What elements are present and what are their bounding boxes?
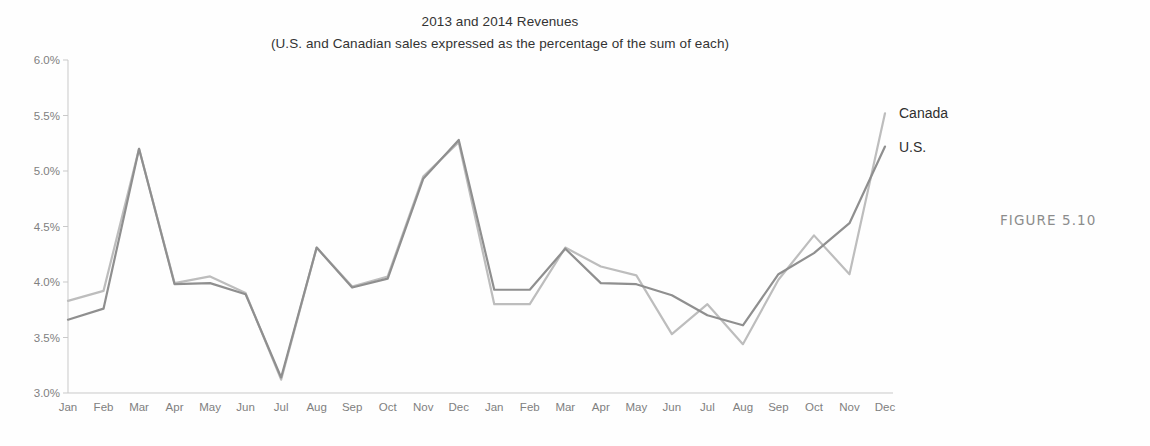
x-tick-label: Jun [236,401,255,413]
x-tick-label: Jul [700,401,715,413]
x-axis-labels: JanFebMarAprMayJunJulAugSepOctNovDecJanF… [0,0,960,430]
x-tick-label: Jan [59,401,78,413]
x-tick-label: Nov [413,401,433,413]
x-tick-label: Sep [768,401,788,413]
x-tick-label: Aug [306,401,326,413]
x-tick-label: Jun [663,401,682,413]
figure-caption: FIGURE 5.10 [1000,212,1096,228]
x-tick-label: Jul [274,401,289,413]
x-tick-label: May [625,401,647,413]
x-tick-label: Mar [129,401,149,413]
x-tick-label: Dec [875,401,895,413]
x-tick-label: Dec [449,401,469,413]
x-tick-label: Apr [166,401,184,413]
series-label-u-s: U.S. [899,139,926,155]
x-tick-label: May [199,401,221,413]
x-tick-label: Oct [379,401,397,413]
x-tick-label: Feb [94,401,114,413]
x-tick-label: Feb [520,401,540,413]
x-tick-label: Jan [485,401,504,413]
series-label-canada: Canada [899,105,948,121]
x-tick-label: Oct [805,401,823,413]
x-tick-label: Nov [839,401,859,413]
x-tick-label: Sep [342,401,362,413]
figure-page: 2013 and 2014 Revenues (U.S. and Canadia… [0,0,1150,446]
x-tick-label: Mar [555,401,575,413]
x-tick-label: Apr [592,401,610,413]
x-tick-label: Aug [733,401,753,413]
